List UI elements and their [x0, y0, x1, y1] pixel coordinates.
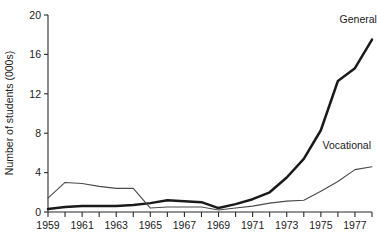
- x-axis-tick-label: 1961: [70, 219, 94, 231]
- y-axis-tick-label: 12: [29, 88, 41, 100]
- x-axis-tick-label: 1967: [173, 219, 197, 231]
- line-chart: 048121620 195919611963196519671969197119…: [0, 0, 377, 247]
- y-axis: 048121620: [29, 9, 48, 218]
- series-label-vocational: Vocational: [323, 139, 371, 151]
- series-labels: GeneralVocational: [323, 13, 377, 151]
- y-axis-tick-label: 16: [29, 48, 41, 60]
- x-axis-tick-label: 1965: [139, 219, 163, 231]
- x-axis-tick-label: 1977: [343, 219, 367, 231]
- series-lines: [48, 40, 372, 210]
- y-axis-title: Number of students (000s): [3, 51, 15, 175]
- y-axis-tick-label: 20: [29, 9, 41, 21]
- y-axis-tick-label: 4: [35, 166, 41, 178]
- x-axis: 1959196119631965196719691971197319751977: [36, 212, 372, 231]
- x-axis-tick-label: 1975: [309, 219, 333, 231]
- x-axis-tick-label: 1963: [105, 219, 129, 231]
- series-line-vocational: [48, 167, 372, 210]
- y-axis-tick-label: 0: [35, 206, 41, 218]
- x-axis-tick-label: 1969: [207, 219, 231, 231]
- series-label-general: General: [340, 13, 377, 25]
- y-axis-tick-label: 8: [35, 127, 41, 139]
- x-axis-tick-label: 1973: [275, 219, 299, 231]
- series-line-general: [48, 40, 372, 209]
- chart-container: 048121620 195919611963196519671969197119…: [0, 0, 377, 247]
- x-axis-tick-label: 1959: [36, 219, 60, 231]
- x-axis-tick-label: 1971: [241, 219, 265, 231]
